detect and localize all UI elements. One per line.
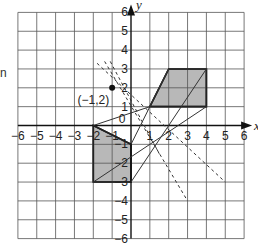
y-tick-label: −4 — [114, 194, 128, 208]
y-tick-label: −1 — [114, 137, 128, 151]
x-tick-label: −3 — [68, 129, 82, 143]
x-tick-label: −6 — [11, 129, 25, 143]
y-tick-label: −2 — [114, 156, 128, 170]
x-tick-label: −4 — [49, 129, 63, 143]
centre-point-label: (−1,2) — [77, 93, 109, 107]
x-tick-label: 3 — [184, 129, 191, 143]
y-tick-label: 6 — [121, 5, 128, 19]
x-tick-label: 6 — [241, 129, 248, 143]
x-tick-label: −2 — [86, 129, 100, 143]
x-tick-label: 2 — [165, 129, 172, 143]
x-tick-label: 5 — [222, 129, 229, 143]
y-tick-label: 2 — [121, 81, 128, 95]
y-tick-label: 4 — [121, 43, 128, 57]
y-tick-label: 5 — [121, 24, 128, 38]
y-axis-arrow-icon — [127, 4, 135, 15]
x-axis-label: x — [253, 118, 258, 133]
y-tick-label: 3 — [121, 62, 128, 76]
x-tick-label: 4 — [203, 129, 210, 143]
y-axis-label: y — [134, 0, 142, 12]
coordinate-grid: −6−5−4−3−2−1123456654321−1−2−3−4−5−60xy(… — [0, 0, 258, 248]
y-tick-label: −6 — [114, 232, 128, 246]
centre-point-dot — [109, 85, 115, 91]
x-tick-label: 1 — [147, 129, 154, 143]
x-tick-label: −5 — [30, 129, 44, 143]
y-tick-label: −3 — [114, 175, 128, 189]
y-tick-label: −5 — [114, 213, 128, 227]
origin-label: 0 — [119, 112, 126, 126]
